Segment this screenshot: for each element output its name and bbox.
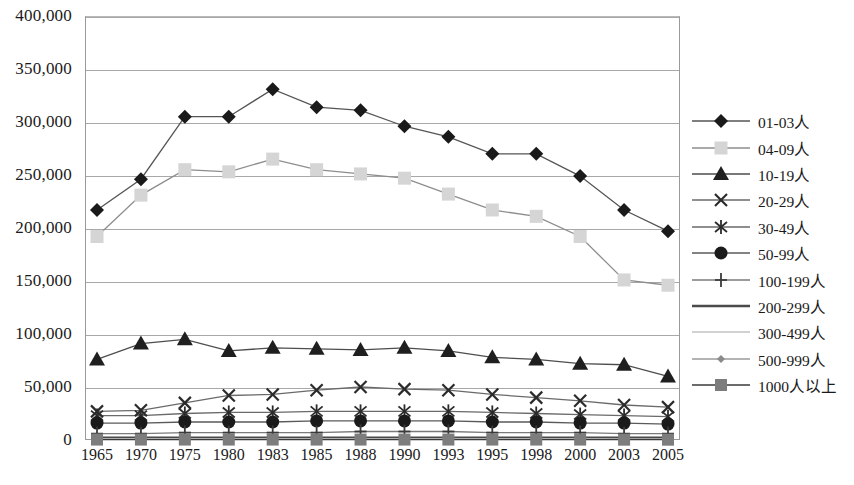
legend-item-label: 500-999人 bbox=[752, 348, 826, 370]
series-markers-1 bbox=[90, 82, 675, 238]
y-axis-tick-label: 100,000 bbox=[15, 324, 72, 344]
data-point-triangle bbox=[89, 351, 105, 365]
data-point-filled-square bbox=[442, 434, 454, 446]
legend-item[interactable]: 200-299人 bbox=[690, 293, 854, 319]
x-axis: 1965197019751980198319851988199019931995… bbox=[85, 446, 680, 476]
y-axis-tick-label: 250,000 bbox=[15, 165, 72, 185]
data-point-diamond bbox=[354, 103, 368, 117]
data-point-circle bbox=[310, 414, 323, 427]
data-point-diamond bbox=[266, 82, 280, 96]
data-point-diamond bbox=[573, 169, 587, 183]
data-point-diamond bbox=[178, 110, 192, 124]
data-point-diamond bbox=[714, 114, 728, 128]
data-point-square bbox=[91, 230, 104, 243]
legend-item[interactable]: 500-999人 bbox=[690, 346, 854, 372]
data-point-filled-square bbox=[715, 379, 727, 391]
legend-item-label: 04-09人 bbox=[752, 137, 810, 159]
data-point-square bbox=[134, 189, 147, 202]
series-1 bbox=[97, 89, 668, 231]
legend-item[interactable]: 04-09人 bbox=[690, 134, 854, 160]
data-point-triangle bbox=[309, 341, 325, 355]
data-point-square bbox=[310, 163, 323, 176]
legend-item[interactable]: 1000人以上 bbox=[690, 372, 854, 398]
legend-item-label: 10-19人 bbox=[752, 163, 810, 185]
x-axis-tick-label: 1970 bbox=[125, 446, 157, 464]
legend-item[interactable]: 01-03人 bbox=[690, 108, 854, 134]
legend-item[interactable]: 20-29人 bbox=[690, 187, 854, 213]
data-point-filled-square bbox=[355, 434, 367, 446]
x-axis-tick-label: 1998 bbox=[520, 446, 552, 464]
data-point-filled-square bbox=[574, 434, 586, 446]
data-point-small-diamond bbox=[717, 355, 725, 363]
legend-key-none-icon bbox=[690, 321, 752, 343]
data-point-triangle bbox=[265, 340, 281, 354]
legend-key-triangle-icon bbox=[690, 163, 752, 185]
data-point-filled-square bbox=[223, 434, 235, 446]
y-axis-tick-label: 200,000 bbox=[15, 218, 72, 238]
x-axis-tick-label: 1993 bbox=[432, 446, 464, 464]
data-point-filled-square bbox=[267, 434, 279, 446]
data-point-diamond bbox=[529, 147, 543, 161]
data-point-diamond bbox=[397, 119, 411, 133]
data-point-square bbox=[442, 188, 455, 201]
y-axis-tick-label: 300,000 bbox=[15, 112, 72, 132]
data-point-square bbox=[486, 203, 499, 216]
legend-item[interactable]: 30-49人 bbox=[690, 214, 854, 240]
data-point-filled-square bbox=[486, 434, 498, 446]
x-axis-tick-label: 1983 bbox=[257, 446, 289, 464]
legend-item-label: 30-49人 bbox=[752, 216, 810, 238]
legend-item-label: 50-99人 bbox=[752, 242, 810, 264]
legend-item[interactable]: 10-19人 bbox=[690, 161, 854, 187]
legend-key-x-icon bbox=[690, 189, 752, 211]
data-point-triangle bbox=[396, 340, 412, 354]
legend-key-none-icon bbox=[690, 295, 752, 317]
y-axis-tick-label: 50,000 bbox=[24, 377, 72, 397]
line-chart: 050,000100,000150,000200,000250,000300,0… bbox=[0, 0, 854, 485]
data-point-filled-square bbox=[662, 434, 674, 446]
x-axis-tick-label: 1990 bbox=[388, 446, 420, 464]
data-point-diamond bbox=[134, 172, 148, 186]
data-point-filled-square bbox=[91, 434, 103, 446]
legend-key-square-icon bbox=[690, 137, 752, 159]
legend-key-diamond-icon bbox=[690, 110, 752, 132]
data-point-filled-square bbox=[398, 434, 410, 446]
data-point-diamond bbox=[485, 147, 499, 161]
legend-key-filled-square-icon bbox=[690, 374, 752, 396]
x-axis-tick-label: 2005 bbox=[652, 446, 684, 464]
x-axis-tick-label: 2003 bbox=[608, 446, 640, 464]
x-axis-tick-label: 1995 bbox=[476, 446, 508, 464]
x-axis-tick-label: 1980 bbox=[213, 446, 245, 464]
data-point-circle bbox=[715, 247, 728, 260]
data-point-square bbox=[618, 273, 631, 286]
data-point-square bbox=[662, 279, 675, 292]
legend-key-small-diamond-icon bbox=[690, 348, 752, 370]
data-point-triangle bbox=[528, 351, 544, 365]
data-point-diamond bbox=[617, 203, 631, 217]
data-point-square bbox=[574, 230, 587, 243]
legend-item[interactable]: 50-99人 bbox=[690, 240, 854, 266]
data-point-diamond bbox=[441, 130, 455, 144]
data-point-triangle bbox=[616, 357, 632, 371]
legend-item-label: 300-499人 bbox=[752, 321, 826, 343]
legend-key-circle-icon bbox=[690, 242, 752, 264]
legend-item-label: 1000人以上 bbox=[752, 374, 837, 396]
x-axis-tick-label: 1985 bbox=[301, 446, 333, 464]
data-point-triangle bbox=[177, 331, 193, 345]
legend-item-label: 200-299人 bbox=[752, 295, 826, 317]
y-axis-tick-label: 350,000 bbox=[15, 59, 72, 79]
data-point-square bbox=[354, 167, 367, 180]
legend-item-label: 20-29人 bbox=[752, 189, 810, 211]
data-point-square bbox=[530, 210, 543, 223]
data-point-square bbox=[266, 153, 279, 166]
data-point-filled-square bbox=[530, 434, 542, 446]
data-point-plus bbox=[715, 273, 727, 287]
legend-item[interactable]: 300-499人 bbox=[690, 319, 854, 345]
data-point-filled-square bbox=[311, 434, 323, 446]
data-point-triangle bbox=[353, 342, 369, 356]
data-point-filled-square bbox=[618, 434, 630, 446]
legend-item[interactable]: 100-199人 bbox=[690, 266, 854, 292]
data-point-filled-square bbox=[179, 434, 191, 446]
data-point-triangle bbox=[713, 166, 729, 180]
series-markers-3 bbox=[89, 331, 676, 382]
data-point-diamond bbox=[661, 224, 675, 238]
